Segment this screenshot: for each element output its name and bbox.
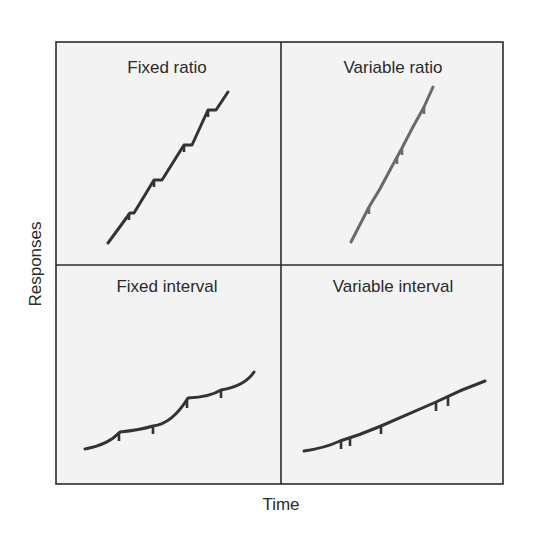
y-axis-label: Responses [26,221,45,306]
panel-title-fixed-ratio: Fixed ratio [127,58,206,77]
panel-background [56,42,503,484]
x-axis-label: Time [262,495,299,514]
panel-title-fixed-interval: Fixed interval [116,277,217,296]
reinforcement-schedules-figure: Fixed ratio Variable ratio Fixed interva… [0,0,535,533]
panel-title-variable-ratio: Variable ratio [344,58,443,77]
panel-title-variable-interval: Variable interval [333,277,454,296]
